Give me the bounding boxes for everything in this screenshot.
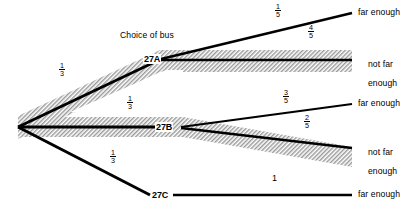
fraction-denominator: 5: [275, 10, 281, 18]
outcome-label-27a-notfar: not far enough: [358, 50, 397, 98]
tree-graphics: [0, 0, 414, 210]
outcome-line-1: not far: [368, 147, 393, 157]
probability-root-27c: 1 3: [110, 149, 116, 164]
fraction-denominator: 3: [127, 102, 133, 110]
outcome-label-27b-notfar: not far enough: [358, 138, 397, 186]
outcome-label-27b-far: far enough: [358, 99, 400, 109]
outcome-line-2: enough: [368, 78, 397, 88]
fraction-numerator: 3: [283, 89, 289, 96]
node-label-27b: 27B: [155, 122, 173, 132]
node-label-27c: 27C: [151, 190, 169, 200]
fraction-numerator: 1: [110, 149, 116, 156]
outcome-line-2: enough: [368, 166, 397, 176]
fraction-numerator: 1: [59, 62, 65, 69]
section-title-choice-of-bus: Choice of bus: [120, 31, 174, 41]
outcome-line-1: not far: [368, 59, 393, 69]
fraction-denominator: 3: [59, 69, 65, 77]
probability-tree-diagram: Choice of bus 27A 27B 27C far enough not…: [0, 0, 414, 210]
probability-root-27b: 1 3: [127, 95, 133, 110]
fraction-denominator: 5: [283, 96, 289, 104]
probability-27b-notfar: 2 5: [304, 114, 310, 129]
fraction-numerator: 4: [308, 24, 314, 31]
fraction-denominator: 3: [110, 156, 116, 164]
fraction-numerator: 2: [304, 114, 310, 121]
fraction-numerator: 1: [275, 3, 281, 10]
node-label-27a: 27A: [143, 54, 161, 64]
probability-value: 1: [272, 173, 277, 183]
fraction-denominator: 5: [308, 31, 314, 39]
outcome-label-27a-far: far enough: [358, 8, 400, 18]
probability-27c-far: 1: [272, 174, 277, 183]
probability-27a-notfar: 4 5: [308, 24, 314, 39]
fraction-numerator: 1: [127, 95, 133, 102]
outcome-label-27c-far: far enough: [358, 190, 400, 200]
branch-27b-far: [181, 104, 352, 127]
branch-root-27c: [18, 127, 150, 195]
fraction-denominator: 5: [304, 121, 310, 129]
probability-root-27a: 1 3: [59, 62, 65, 77]
probability-27a-far: 1 5: [275, 3, 281, 18]
probability-27b-far: 3 5: [283, 89, 289, 104]
